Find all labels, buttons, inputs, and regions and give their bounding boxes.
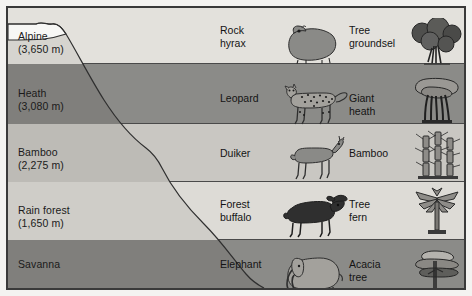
zone-label-bamboo: Bamboo (2,275 m) [18,146,64,171]
giant-heath-illustration [408,74,464,126]
animal-label-forest-buffalo: Forest buffalo [220,198,251,223]
elephant-illustration [278,248,350,290]
forest-buffalo-illustration [280,190,350,238]
zone-label-alpine: Alpine (3,650 m) [18,30,64,55]
leopard-illustration [280,78,350,126]
plant-label-acacia-tree: Acacia tree [349,258,381,283]
zone-label-savanna: Savanna [18,258,60,271]
animal-label-duiker: Duiker [220,147,250,160]
vegetation-zone-diagram: Alpine (3,650 m) Heath (3,080 m) Bamboo … [0,0,472,296]
plant-label-giant-heath: Giant heath [349,92,375,117]
animal-label-leopard: Leopard [220,92,259,105]
zone-label-heath: Heath (3,080 m) [18,87,64,112]
plant-label-tree-fern: Tree fern [349,198,370,223]
bamboo-illustration [410,130,464,182]
tree-groundsel-illustration [408,18,464,66]
acacia-tree-illustration [408,246,464,290]
plant-label-bamboo: Bamboo [349,147,388,160]
animal-label-elephant: Elephant [220,258,261,271]
tree-fern-illustration [410,186,464,238]
zone-label-rain-forest: Rain forest (1,650 m) [18,204,70,229]
animal-label-rock-hyrax: Rock hyrax [220,24,246,49]
diagram-frame: Alpine (3,650 m) Heath (3,080 m) Bamboo … [6,6,466,290]
rock-hyrax-illustration [280,20,342,64]
duiker-illustration [284,134,346,180]
plant-label-tree-groundsel: Tree groundsel [349,24,395,49]
